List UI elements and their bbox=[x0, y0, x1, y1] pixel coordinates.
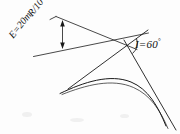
offset-left-tick bbox=[50, 17, 56, 20]
diagram-canvas: I=60° R/10 E=20m bbox=[0, 0, 180, 134]
scan-speck bbox=[120, 114, 129, 118]
intersection-angle-value: I=60 bbox=[135, 38, 158, 50]
dimension-arrow-head-bottom bbox=[60, 42, 65, 49]
degree-symbol: ° bbox=[158, 37, 161, 45]
dimension-arrow-head-top bbox=[60, 20, 65, 27]
intersection-angle-label: I=60° bbox=[135, 38, 161, 50]
scan-speck bbox=[70, 118, 84, 122]
scan-speck bbox=[22, 112, 32, 117]
forward-tangent bbox=[124, 40, 176, 130]
offset-line-upper bbox=[56, 17, 137, 50]
